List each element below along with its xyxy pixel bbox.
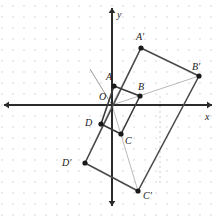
y-axis-arrow-1 bbox=[109, 201, 116, 206]
axis-label-x: x bbox=[205, 112, 209, 122]
ray-O-C2 bbox=[112, 105, 138, 191]
point-d2[interactable] bbox=[82, 160, 87, 165]
axis-label-y: y bbox=[117, 10, 121, 20]
point-label-b: B bbox=[138, 82, 144, 92]
point-a[interactable] bbox=[111, 83, 116, 88]
x-axis-arrow-0 bbox=[4, 102, 9, 109]
point-label-d2: D′ bbox=[62, 158, 71, 168]
diagram-canvas bbox=[0, 0, 218, 216]
point-label-c2: C′ bbox=[143, 191, 152, 201]
y-axis-arrow-0 bbox=[109, 8, 116, 13]
point-label-c: C bbox=[125, 136, 132, 146]
point-label-a: A bbox=[106, 72, 112, 82]
point-label-d: D bbox=[85, 118, 92, 128]
point-d[interactable] bbox=[98, 121, 103, 126]
point-c[interactable] bbox=[118, 131, 123, 136]
point-label-a2: A′ bbox=[136, 32, 144, 42]
dilation-diagram: OABCDA′B′C′D′xy bbox=[0, 0, 218, 216]
x-axis-arrow-1 bbox=[207, 102, 212, 109]
point-label-b2: B′ bbox=[192, 62, 200, 72]
point-label-o: O bbox=[99, 92, 106, 102]
point-b[interactable] bbox=[137, 93, 142, 98]
point-b2[interactable] bbox=[196, 73, 201, 78]
point-a2[interactable] bbox=[138, 45, 143, 50]
point-c2[interactable] bbox=[135, 188, 140, 193]
